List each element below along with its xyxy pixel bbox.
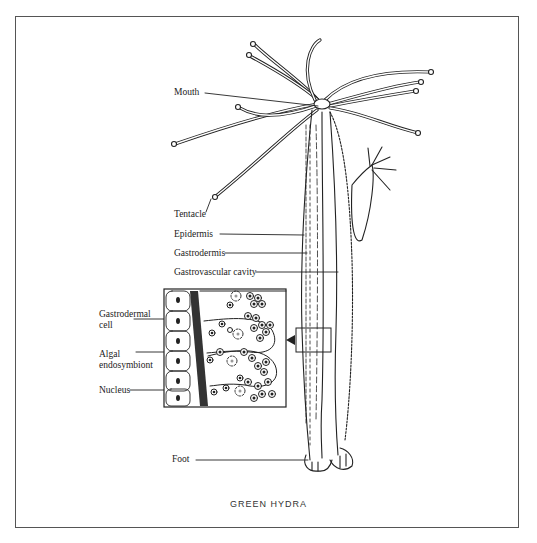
- mouth-region: [314, 99, 330, 109]
- label-gastrodermal-cell-line1: Gastrodermal: [99, 309, 151, 320]
- inset-cell-detail: [164, 289, 286, 407]
- hydra-body: [302, 110, 353, 460]
- foot-basal-disc: [305, 448, 353, 471]
- tentacles: [172, 40, 434, 200]
- label-algal-endosymbiont-line2: endosymbiont: [99, 360, 153, 371]
- label-algal-endosymbiont-line1: Algal: [99, 349, 120, 360]
- inset-pointer-arrow: [286, 335, 295, 345]
- label-epidermis: Epidermis: [174, 229, 213, 240]
- label-mouth: Mouth: [174, 87, 199, 98]
- label-gastrovascular-cavity: Gastrovascular cavity: [174, 267, 257, 278]
- label-gastrodermal-cell-line2: cell: [99, 320, 113, 331]
- hydra-illustration: [0, 0, 537, 543]
- label-gastrodermis: Gastrodermis: [174, 248, 225, 259]
- label-nucleus: Nucleus: [99, 385, 130, 396]
- figure-caption: GREEN HYDRA: [0, 499, 537, 509]
- inset-source-marker: [296, 328, 331, 352]
- label-tentacle: Tentacle: [174, 209, 206, 220]
- label-foot: Foot: [172, 454, 189, 465]
- bud: [352, 147, 396, 241]
